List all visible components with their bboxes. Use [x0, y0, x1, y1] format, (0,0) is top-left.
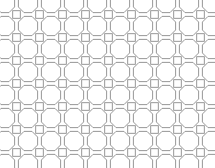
square-tile: [59, 80, 67, 88]
square-tile: [13, 57, 21, 65]
square-tile: [174, 103, 182, 111]
square-tile: [36, 126, 44, 134]
tiling-figure: [0, 0, 215, 168]
octagon-tile: [0, 16, 15, 35]
octagon-tile: [18, 16, 37, 35]
octagon-tile: [179, 108, 198, 127]
octagon-tile: [156, 62, 175, 81]
octagon-tile: [179, 131, 198, 150]
square-tile: [13, 34, 21, 42]
square-tile: [59, 103, 67, 111]
square-tile: [151, 103, 159, 111]
square-tile: [82, 57, 90, 65]
square-tile: [59, 11, 67, 19]
square-tile: [197, 11, 205, 19]
octagon-tile: [87, 108, 106, 127]
octagon-tile: [87, 131, 106, 150]
square-tile: [36, 149, 44, 157]
square-tile: [174, 80, 182, 88]
octagon-tile: [41, 85, 60, 104]
square-tile: [151, 11, 159, 19]
square-tile: [151, 126, 159, 134]
square-tile: [128, 80, 136, 88]
octagon-tile: [179, 85, 198, 104]
square-tile: [82, 126, 90, 134]
square-tile: [105, 103, 113, 111]
octagon-tile: [156, 131, 175, 150]
octagon-tile: [18, 131, 37, 150]
octagon-tile: [64, 131, 83, 150]
octagon-tile: [133, 39, 152, 58]
square-tile: [59, 57, 67, 65]
square-tile: [82, 34, 90, 42]
square-tile: [105, 149, 113, 157]
square-tile: [197, 126, 205, 134]
octagon-tile: [18, 85, 37, 104]
octagon-tile: [41, 16, 60, 35]
square-tile: [59, 34, 67, 42]
square-tile: [82, 149, 90, 157]
square-tile: [105, 11, 113, 19]
square-tile: [13, 11, 21, 19]
octagon-tile: [41, 39, 60, 58]
octagon-tile: [18, 108, 37, 127]
square-tile: [151, 80, 159, 88]
square-tile: [36, 80, 44, 88]
octagon-tile: [0, 131, 15, 150]
square-tile: [174, 34, 182, 42]
octagon-tile: [87, 85, 106, 104]
octagon-tile: [18, 62, 37, 81]
octagon-tile: [133, 85, 152, 104]
octagon-tile: [41, 131, 60, 150]
square-tile: [174, 126, 182, 134]
square-tile: [174, 57, 182, 65]
square-tile: [36, 57, 44, 65]
square-tile: [13, 80, 21, 88]
square-tile: [59, 149, 67, 157]
square-tile: [105, 126, 113, 134]
octagon-tile: [64, 108, 83, 127]
square-tile: [36, 103, 44, 111]
octagon-tile: [110, 39, 129, 58]
square-tile: [151, 34, 159, 42]
square-tile: [128, 126, 136, 134]
octagon-tile: [18, 39, 37, 58]
octagon-tile: [179, 16, 198, 35]
square-tile: [105, 34, 113, 42]
octagon-tile: [110, 108, 129, 127]
square-tile: [82, 11, 90, 19]
square-tile: [128, 57, 136, 65]
octagon-tile: [179, 62, 198, 81]
octagon-tile: [0, 39, 15, 58]
octagon-tile: [0, 108, 15, 127]
octagon-tile: [110, 85, 129, 104]
octagon-tile: [0, 85, 15, 104]
square-tile: [13, 103, 21, 111]
octagon-tile: [87, 16, 106, 35]
square-tile: [105, 57, 113, 65]
octagon-tile: [179, 39, 198, 58]
square-tile: [174, 149, 182, 157]
square-tile: [197, 80, 205, 88]
square-tile: [82, 103, 90, 111]
square-tile: [13, 126, 21, 134]
square-tile: [36, 34, 44, 42]
square-tile: [105, 80, 113, 88]
square-tile: [128, 103, 136, 111]
octagon-tile: [133, 16, 152, 35]
square-tile: [197, 103, 205, 111]
square-tile: [128, 11, 136, 19]
octagon-tile: [110, 131, 129, 150]
octagon-tile: [133, 62, 152, 81]
octagon-tile: [133, 131, 152, 150]
square-tile: [197, 57, 205, 65]
octagon-tile: [133, 108, 152, 127]
square-tile: [197, 149, 205, 157]
octagon-tile: [156, 85, 175, 104]
octagon-tile: [110, 16, 129, 35]
octagon-tile: [87, 62, 106, 81]
square-tile: [59, 126, 67, 134]
octagon-tile: [156, 108, 175, 127]
octagon-tile: [41, 62, 60, 81]
octagon-tile: [41, 108, 60, 127]
